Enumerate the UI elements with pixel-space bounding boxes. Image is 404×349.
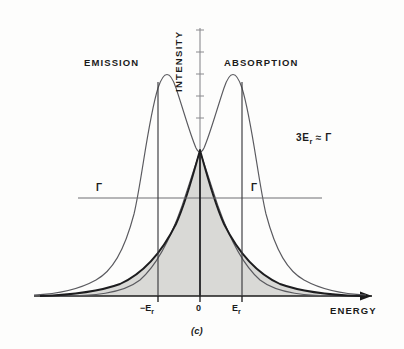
relation-subscript: r (309, 137, 312, 146)
x-axis-label: ENERGY (330, 305, 377, 316)
plot-canvas (0, 0, 404, 349)
figure-caption: (c) (191, 325, 203, 336)
x-tick-label-negative-er: −Er (140, 303, 154, 315)
tick-neg-main: −E (140, 303, 151, 313)
tick-neg-sub: r (151, 308, 154, 315)
y-axis-label: INTENSITY (173, 31, 184, 92)
x-tick-label-zero: 0 (196, 303, 201, 313)
gamma-width-label-left: Γ (96, 182, 102, 193)
tick-pos-sub: r (238, 308, 241, 315)
emission-label: EMISSION (84, 57, 139, 68)
gamma-width-label-right: Γ (251, 182, 257, 193)
relation-prefix: 3E (296, 132, 309, 143)
x-axis-arrowhead (360, 292, 372, 301)
recoil-relation-annotation: 3Er ≈ Γ (296, 132, 332, 146)
relation-suffix: ≈ Γ (316, 132, 332, 143)
x-tick-label-positive-er: Er (232, 303, 241, 315)
x-axis-ticks (158, 296, 242, 302)
figure-container: EMISSION ABSORPTION INTENSITY ENERGY Γ Γ… (0, 0, 404, 349)
absorption-label: ABSORPTION (224, 57, 298, 68)
